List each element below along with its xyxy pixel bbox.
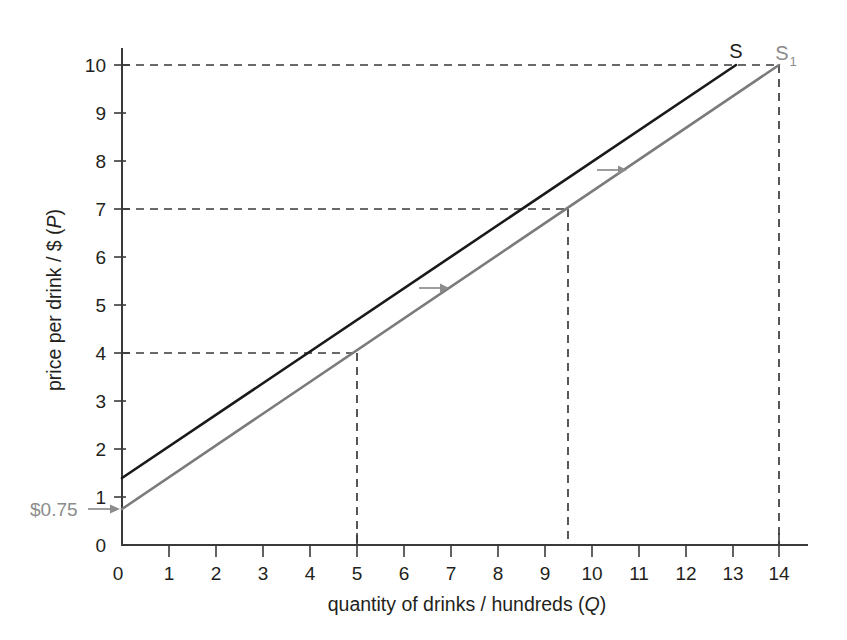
x-tick-label: 0 — [113, 563, 124, 584]
shift-arrow-upper-icon — [597, 166, 627, 175]
x-axis-tick-labels: 0 1 2 3 4 5 6 7 8 9 10 11 12 13 14 — [113, 563, 790, 584]
y-tick-label: 4 — [95, 343, 106, 364]
x-tick-label: 9 — [540, 563, 551, 584]
intercept-note-label: $0.75 — [30, 499, 78, 520]
y-tick-label: 5 — [95, 295, 106, 316]
y-tick-label: 6 — [95, 247, 106, 268]
curve-label-s1-subscript: 1 — [790, 54, 797, 69]
supply-curve-s1 — [122, 65, 779, 509]
supply-curves — [122, 65, 779, 509]
x-axis-title-symbol: Q — [585, 593, 600, 615]
y-tick-label: 0 — [95, 535, 106, 556]
supply-curve-figure: 0 1 2 3 4 5 6 7 8 9 10 0 1 2 3 4 5 6 — [0, 0, 847, 640]
x-tick-label: 4 — [305, 563, 316, 584]
x-tick-label: 5 — [352, 563, 363, 584]
x-tick-label: 12 — [675, 563, 696, 584]
intercept-annotation: $0.75 — [30, 499, 120, 520]
y-axis-title-symbol: P — [43, 215, 65, 228]
y-tick-label: 1 — [95, 487, 106, 508]
x-tick-label: 7 — [446, 563, 457, 584]
x-axis-title-text: quantity of drinks / hundreds ( — [328, 593, 585, 615]
x-tick-label: 14 — [768, 563, 790, 584]
chart-canvas: 0 1 2 3 4 5 6 7 8 9 10 0 1 2 3 4 5 6 — [0, 0, 847, 640]
intercept-arrow-head-icon — [110, 505, 120, 514]
axis-titles: quantity of drinks / hundreds (Q) price … — [43, 209, 606, 615]
curve-label-s: S — [729, 40, 742, 62]
x-tick-label: 1 — [164, 563, 175, 584]
x-tick-label: 2 — [211, 563, 222, 584]
axis-lines — [122, 48, 808, 545]
x-tick-label: 3 — [258, 563, 269, 584]
y-tick-label: 10 — [85, 55, 106, 76]
axes: 0 1 2 3 4 5 6 7 8 9 10 0 1 2 3 4 5 6 — [85, 48, 808, 584]
y-axis-tick-labels: 0 1 2 3 4 5 6 7 8 9 10 — [85, 55, 107, 556]
curve-label-s1-main: S — [775, 42, 788, 64]
x-axis-title: quantity of drinks / hundreds (Q) — [328, 593, 607, 615]
x-tick-label: 11 — [629, 563, 649, 584]
y-axis-title: price per drink / $ (P) — [43, 209, 65, 391]
x-tick-label: 13 — [722, 563, 743, 584]
shift-arrows — [419, 166, 627, 293]
y-tick-label: 9 — [95, 103, 106, 124]
y-tick-label: 8 — [95, 151, 106, 172]
y-tick-label: 7 — [95, 199, 106, 220]
x-tick-label: 10 — [581, 563, 602, 584]
supply-curve-s — [122, 65, 736, 478]
x-tick-label: 6 — [399, 563, 410, 584]
y-tick-label: 2 — [95, 439, 106, 460]
x-tick-label: 8 — [493, 563, 504, 584]
y-tick-label: 3 — [95, 391, 106, 412]
x-axis-title-tail: ) — [600, 593, 607, 615]
reference-lines — [122, 65, 779, 545]
y-axis-title-text: price per drink / $ ( — [43, 228, 65, 391]
y-axis-title-tail: ) — [43, 209, 65, 216]
